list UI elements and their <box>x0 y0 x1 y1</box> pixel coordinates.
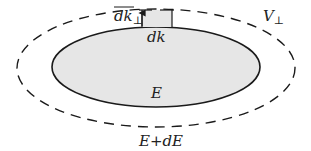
diagram-canvas: dk⊥ dk V⊥ E E+dE <box>0 0 311 151</box>
volume-element-box <box>142 10 172 27</box>
e-label: E <box>150 84 162 102</box>
v-perp-label: V⊥ <box>263 7 284 27</box>
diagram-svg: dk⊥ dk V⊥ E E+dE <box>0 0 311 151</box>
dk-label: dk <box>147 28 166 46</box>
e-plus-de-label: E+dE <box>138 132 183 150</box>
